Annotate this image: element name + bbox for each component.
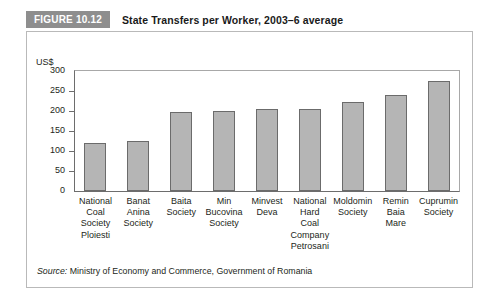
x-axis-label-line: Ploiesti: [68, 230, 123, 241]
bar: [428, 81, 450, 191]
y-axis-tick-label: 200: [50, 105, 65, 116]
x-axis-label-line: Mare: [368, 218, 423, 229]
source-prefix: Source:: [37, 266, 67, 276]
source-note: Source: Ministry of Economy and Commerce…: [37, 266, 312, 276]
y-axis-tick-label: 100: [50, 145, 65, 156]
x-axis-label-line: Society: [111, 218, 166, 229]
bar: [84, 143, 106, 191]
bar-chart: US$ 050100150200250300 NationalCoalSocie…: [0, 0, 499, 307]
y-axis-tick-label: 0: [60, 185, 65, 196]
x-axis-label-line: Coal: [282, 218, 337, 229]
y-axis-tick-label: 150: [50, 125, 65, 136]
x-axis-label-line: Company: [282, 230, 337, 241]
source-text: Ministry of Economy and Commerce, Govern…: [67, 266, 312, 276]
bar: [256, 109, 278, 191]
bar: [385, 95, 407, 191]
x-axis-label-line: Petrosani: [282, 241, 337, 252]
x-axis-label-line: Society: [411, 207, 466, 218]
bar: [213, 111, 235, 191]
y-axis-tick-label: 250: [50, 85, 65, 96]
bar: [127, 141, 149, 191]
figure-root: FIGURE 10.12 State Transfers per Worker,…: [0, 0, 499, 307]
x-axis-labels: NationalCoalSocietyPloiestiBanatAninaSoc…: [74, 196, 460, 258]
bar: [299, 109, 321, 191]
x-axis-label-line: Cuprumin: [411, 196, 466, 207]
y-axis-tick-label: 50: [55, 165, 65, 176]
bar: [342, 102, 364, 191]
bar: [170, 112, 192, 191]
x-axis-label-line: Society: [197, 218, 252, 229]
bars-layer: [74, 70, 460, 192]
y-axis-tick-label: 300: [50, 65, 65, 76]
x-axis-label: CupruminSociety: [411, 196, 466, 218]
